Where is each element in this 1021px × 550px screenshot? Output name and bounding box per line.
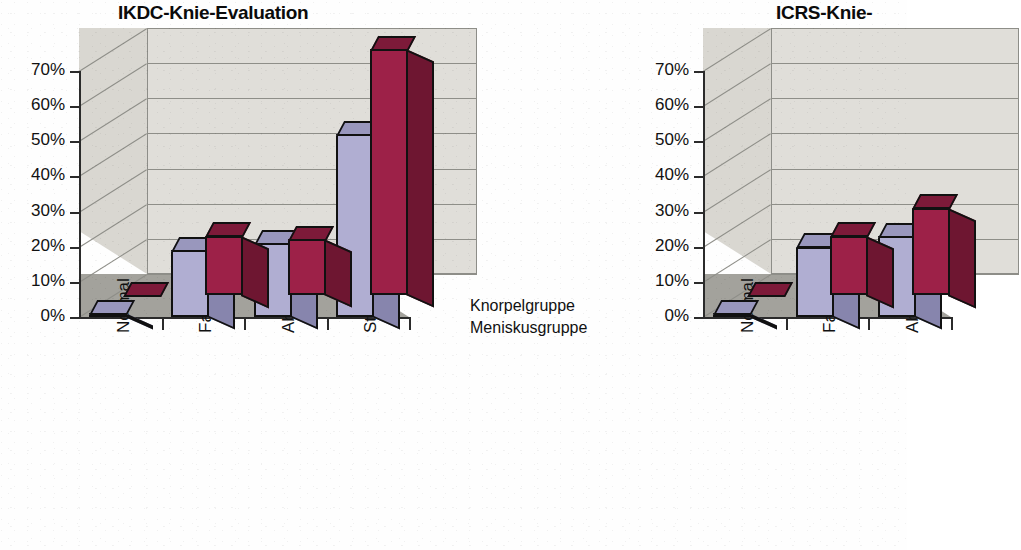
bar-meniskusgruppe-0 [89, 300, 127, 317]
bar-top-face [288, 226, 334, 241]
bar-top-face [123, 282, 169, 297]
gridline-back [771, 63, 1019, 64]
bar-front-face [205, 236, 243, 296]
bar-front-face [370, 49, 408, 295]
y-axis-tick-label: 30% [3, 201, 65, 221]
y-axis-tick [694, 247, 703, 249]
gridline-back [771, 169, 1019, 170]
x-axis-tick [327, 317, 329, 330]
bar-top-face [830, 222, 876, 237]
y-axis-tick-label: 70% [3, 60, 65, 80]
x-axis-tick [951, 317, 953, 330]
bar-knorpelgruppe-1 [830, 222, 868, 295]
y-axis-tick-label: 20% [3, 236, 65, 256]
x-axis-tick [244, 317, 246, 330]
y-axis-tick-label: 0% [3, 306, 65, 326]
y-axis-tick-label: 50% [627, 130, 689, 150]
y-axis-tick-label: 10% [3, 271, 65, 291]
y-axis-tick-label: 60% [627, 95, 689, 115]
y-axis-tick [70, 106, 79, 108]
x-axis-tick [786, 317, 788, 330]
bar-side-face [866, 236, 894, 308]
bar-knorpelgruppe-2 [912, 194, 950, 295]
bar-knorpelgruppe-1 [205, 222, 243, 295]
y-axis-tick [694, 212, 703, 214]
bar-front-face [830, 236, 868, 296]
bar-side-face [241, 236, 269, 308]
gridline-back [771, 204, 1019, 205]
bar-front-face [912, 208, 950, 296]
y-axis-tick-label: 10% [627, 271, 689, 291]
series-label-1: Meniskusgruppe [470, 319, 587, 337]
bar-meniskusgruppe-1 [171, 237, 209, 317]
y-axis-tick-label: 60% [3, 95, 65, 115]
bar-side-face [406, 49, 434, 308]
bar-front-face [796, 247, 834, 317]
y-axis-tick-label: 70% [627, 60, 689, 80]
chart-ikdc: IKDC-Knie-Evaluation 0%10%20%30%40%50%60… [0, 0, 660, 550]
y-axis-tick [70, 247, 79, 249]
y-axis-tick [694, 71, 703, 73]
y-axis-line [79, 71, 81, 319]
y-axis-tick [70, 317, 79, 319]
bar-knorpelgruppe-0 [747, 282, 785, 295]
y-axis-tick [70, 176, 79, 178]
y-axis-tick-label: 30% [627, 201, 689, 221]
bar-front-face [171, 250, 209, 317]
series-label-0: Knorpelgruppe [470, 297, 575, 315]
gridline-back [771, 133, 1019, 134]
y-axis-tick-label: 40% [3, 165, 65, 185]
gridline-back [147, 28, 477, 29]
y-axis-tick-label: 20% [627, 236, 689, 256]
y-axis-tick [70, 282, 79, 284]
y-axis-line [703, 71, 705, 319]
y-axis-tick [70, 212, 79, 214]
gridline-back [771, 98, 1019, 99]
bar-side-face [948, 208, 976, 309]
y-axis-tick [694, 282, 703, 284]
y-axis-tick [694, 141, 703, 143]
x-axis-tick [162, 317, 164, 330]
bar-top-face [747, 282, 793, 297]
chart-icrs: ICRS-Knie- 0%10%20%30%40%50%60%70%Normal… [600, 0, 907, 550]
gridline-back [771, 28, 1019, 29]
bar-top-face [713, 300, 759, 315]
y-axis-tick-label: 40% [627, 165, 689, 185]
y-axis-tick-label: 50% [3, 130, 65, 150]
x-axis-tick [868, 317, 870, 330]
bar-knorpelgruppe-3 [370, 36, 408, 295]
y-axis-tick-label: 0% [627, 306, 689, 326]
bar-front-face [288, 239, 326, 295]
y-axis-tick [70, 71, 79, 73]
bar-top-face [89, 300, 135, 315]
bar-knorpelgruppe-2 [288, 226, 326, 296]
bar-knorpelgruppe-0 [123, 282, 161, 295]
x-axis-tick [409, 317, 411, 330]
y-axis-tick [694, 317, 703, 319]
bar-meniskusgruppe-0 [713, 300, 751, 317]
bar-meniskusgruppe-1 [796, 233, 834, 317]
y-axis-tick [70, 141, 79, 143]
y-axis-tick [694, 176, 703, 178]
y-axis-tick [694, 106, 703, 108]
